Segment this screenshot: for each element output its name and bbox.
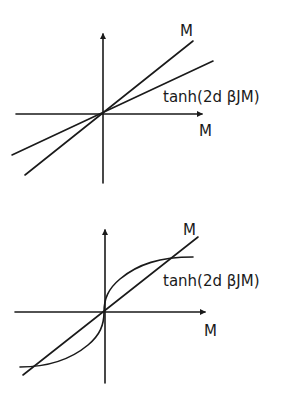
diagram-subcritical: M tanh(2d βJM) M bbox=[0, 0, 283, 200]
line-m bbox=[25, 41, 193, 175]
label-x-axis: M bbox=[199, 122, 212, 140]
diagram-supercritical-svg: M tanh(2d βJM) M bbox=[0, 200, 283, 400]
label-line-m: M bbox=[180, 22, 193, 40]
label-curve-tanh: tanh(2d βJM) bbox=[163, 88, 260, 106]
label-curve-tanh: tanh(2d βJM) bbox=[163, 272, 260, 290]
diagram-supercritical: M tanh(2d βJM) M bbox=[0, 200, 283, 400]
curve-tanh bbox=[12, 61, 213, 155]
label-x-axis: M bbox=[204, 322, 217, 340]
label-line-m: M bbox=[183, 221, 196, 239]
diagram-subcritical-svg: M tanh(2d βJM) M bbox=[0, 0, 283, 200]
